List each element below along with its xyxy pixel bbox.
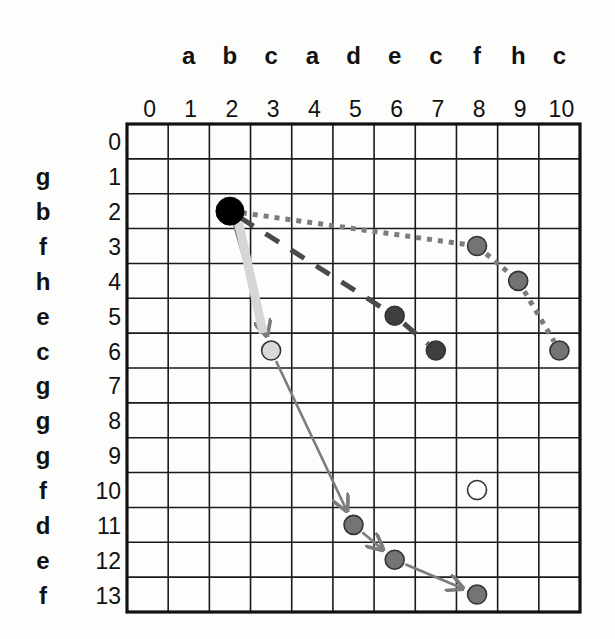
column-index: 6: [390, 96, 403, 122]
column-letter: c: [553, 42, 566, 69]
alignment-grid: [127, 124, 580, 612]
hollow-node-circle: [468, 481, 487, 500]
column-index: 4: [308, 96, 321, 122]
column-letter: a: [306, 42, 320, 69]
column-letter: d: [346, 42, 361, 69]
row-letter: b: [36, 198, 51, 225]
row-index: 13: [95, 583, 121, 609]
row-index: 0: [108, 129, 121, 155]
row-index: 2: [108, 199, 121, 225]
start-node-circle: [216, 197, 244, 225]
column-letter: c: [429, 42, 442, 69]
alignment-paths: [233, 213, 554, 589]
row-letter: g: [36, 442, 51, 469]
row-index: 3: [108, 234, 121, 260]
row-letter: c: [36, 338, 49, 365]
row-index: 8: [108, 408, 121, 434]
medium-node-circle: [468, 585, 487, 604]
column-index: 7: [431, 96, 444, 122]
medium-node-circle: [468, 237, 487, 256]
column-letter: h: [511, 42, 526, 69]
dark-node-circle: [385, 306, 404, 325]
row-index: 9: [108, 443, 121, 469]
column-index: 10: [549, 96, 575, 122]
column-letter: b: [223, 42, 238, 69]
row-letter: f: [39, 477, 48, 504]
row-letter: g: [36, 163, 51, 190]
row-letter: f: [39, 233, 48, 260]
column-sequence-labels: abcadecfhc: [182, 42, 566, 69]
row-letter: d: [36, 512, 51, 539]
row-index: 1: [108, 164, 121, 190]
row-index: 12: [95, 548, 121, 574]
row-index: 5: [108, 304, 121, 330]
row-letter: e: [36, 303, 49, 330]
row-index: 11: [97, 513, 121, 539]
medium-node-circle: [344, 515, 363, 534]
column-letter: f: [473, 42, 482, 69]
column-index-labels: 012345678910: [143, 96, 574, 122]
row-index-labels: 012345678910111213: [95, 129, 121, 608]
column-letter: c: [264, 42, 277, 69]
column-index: 8: [473, 96, 486, 122]
column-index: 0: [143, 96, 156, 122]
row-index: 10: [95, 478, 121, 504]
row-index: 4: [108, 269, 121, 295]
column-letter: e: [388, 42, 401, 69]
alignment-arrow: [362, 532, 383, 549]
medium-node-circle: [509, 271, 528, 290]
column-index: 5: [349, 96, 362, 122]
dark-node-circle: [426, 341, 445, 360]
row-letter: f: [39, 582, 48, 609]
row-sequence-labels: gbfhecgggfdef: [36, 163, 51, 608]
column-index: 1: [184, 96, 197, 122]
column-index: 9: [514, 96, 527, 122]
row-letter: g: [36, 407, 51, 434]
alignment-diagram: abcadecfhc 012345678910 gbfhecgggfdef 01…: [0, 0, 615, 639]
column-index: 3: [267, 96, 280, 122]
column-letter: a: [182, 42, 196, 69]
medium-node-circle: [385, 550, 404, 569]
light-node-circle: [262, 341, 281, 360]
row-index: 6: [108, 339, 121, 365]
row-letter: g: [36, 372, 51, 399]
column-index: 2: [226, 96, 239, 122]
alignment-arrow: [276, 361, 347, 511]
row-letter: e: [36, 547, 49, 574]
row-letter: h: [36, 268, 51, 295]
medium-node-circle: [550, 341, 569, 360]
row-index: 7: [108, 373, 121, 399]
